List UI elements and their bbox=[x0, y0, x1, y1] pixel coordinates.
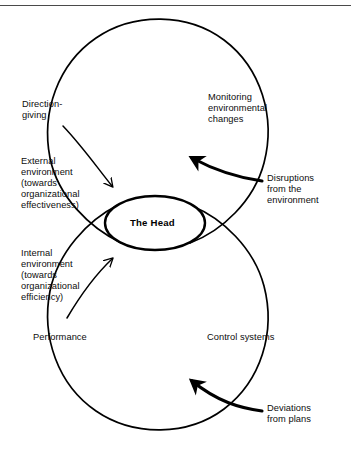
label-disruptions-from-the-environment: Disruptions from the environment bbox=[267, 173, 319, 206]
label-deviations-from-plans: Deviations from plans bbox=[267, 403, 311, 425]
disruptions-arrow bbox=[192, 158, 262, 181]
diagram-canvas: Direction- giving External environment (… bbox=[0, 0, 351, 449]
label-control-systems: Control systems bbox=[207, 332, 274, 343]
label-internal-environment: Internal environment (towards organizati… bbox=[21, 248, 80, 303]
label-monitoring-environmental-changes: Monitoring environmental changes bbox=[208, 92, 267, 125]
label-performance: Performance bbox=[33, 332, 87, 343]
label-the-head: The Head bbox=[130, 217, 175, 228]
label-direction-giving: Direction- giving bbox=[22, 99, 62, 121]
diagram-vector-layer bbox=[0, 0, 351, 449]
label-external-environment: External environment (towards organizati… bbox=[21, 156, 80, 211]
